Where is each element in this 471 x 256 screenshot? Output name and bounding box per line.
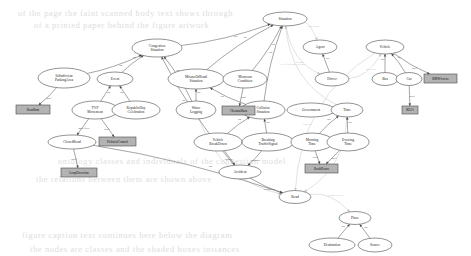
edge-label: isa (381, 57, 385, 61)
edge-label: causes (225, 157, 233, 161)
node-label: Government (302, 108, 320, 112)
class-node[interactable]: Agent (303, 40, 337, 54)
faint-edge-layer (199, 22, 381, 212)
edge-label: leadsTo (251, 158, 261, 162)
class-node[interactable]: Place (339, 212, 371, 225)
edge-label: isa (197, 90, 201, 94)
node-label: RoadJam (27, 107, 40, 111)
node-label: RushHours (314, 166, 330, 170)
edge-label: isa (244, 35, 248, 39)
node-label: Agent (316, 45, 325, 49)
instance-node[interactable]: ChennaiRain (222, 106, 255, 115)
edge-label: isa (327, 117, 331, 121)
instance-node[interactable]: RoadJam (16, 105, 50, 114)
class-node[interactable]: Source (358, 238, 392, 252)
node-label: Situation (279, 17, 292, 21)
node-label: PoliticalControl (107, 139, 128, 143)
node-label: Bus (382, 77, 388, 81)
edge-arrowhead (77, 132, 80, 135)
edge-label: isa (133, 55, 137, 59)
class-node[interactable]: MisuseOfRoadSituation (168, 69, 224, 89)
node-label: Time (343, 108, 351, 112)
edge-label: hasAgent (308, 24, 319, 28)
graph-edge (181, 24, 270, 45)
node-label: CollisionSituation (256, 106, 269, 114)
edge-label: isa (107, 90, 111, 94)
class-node[interactable]: MonsoonCondition (223, 70, 267, 88)
edge-arrowhead (76, 165, 79, 168)
edge-arrowhead (384, 54, 387, 57)
node-label: Accident (234, 170, 247, 174)
edge-arrowhead (120, 86, 123, 89)
class-node[interactable]: Bus (372, 73, 398, 86)
edge-arrowhead (408, 103, 411, 106)
edge-arrowhead (360, 224, 363, 227)
edge-label: hasEffect (78, 126, 89, 130)
class-node[interactable]: ClosedRoad (48, 135, 96, 149)
edge-label: isa (348, 120, 352, 124)
class-node[interactable]: Government (287, 103, 335, 117)
class-node[interactable]: Situation (263, 12, 307, 26)
edge-label: isa (269, 50, 273, 54)
graph-edge (207, 25, 274, 70)
class-node[interactable]: BreakingTrafficSignal (242, 133, 294, 151)
edge-label: isOf (46, 96, 51, 100)
class-node[interactable]: EveningTime (327, 133, 369, 151)
node-label: Event (111, 77, 119, 81)
class-node[interactable]: RepublicDayCelebration (112, 101, 160, 119)
edge-label: isAffectedBy atTime (281, 62, 306, 66)
class-node[interactable]: Time (331, 103, 363, 117)
node-label: Destination (324, 243, 341, 247)
node-label: ChennaiRain (230, 108, 248, 112)
class-node[interactable]: Driver (315, 72, 349, 86)
class-node[interactable]: Car (396, 73, 422, 86)
node-label: Vehicle (380, 45, 391, 49)
node-label: Source (370, 243, 380, 247)
graph-edge (252, 26, 281, 71)
instance-node[interactable]: PoliticalControl (99, 137, 136, 146)
node-label: CongestionSituation (149, 44, 166, 52)
edge-label: isa (266, 120, 270, 124)
edge-label-layer: isaisaisaisaisaisaisaisaisaisaisaisaisai… (46, 24, 417, 229)
edge-label: isa (272, 42, 276, 46)
class-node[interactable]: VehicleBreakDown (194, 133, 242, 151)
edge-label: isa (238, 117, 242, 121)
graph-edge (264, 26, 282, 101)
instance-node[interactable]: KL01 (402, 106, 418, 114)
edge-label: runsOn (303, 122, 312, 126)
graph-edge (199, 119, 281, 194)
class-node[interactable]: Accident (219, 165, 261, 179)
edge-label: drivesBy (366, 67, 377, 71)
edge-arrowhead (294, 188, 297, 191)
edge-label: connectedTo (329, 193, 344, 197)
node-label: InSufficientParkingArea (55, 74, 74, 82)
class-node[interactable]: CongestionSituation (132, 39, 182, 57)
class-node[interactable]: Event (97, 72, 133, 86)
edge-label: isa (341, 224, 345, 228)
node-label: ClosedRoad (63, 140, 81, 144)
edge-arrowhead (108, 86, 111, 89)
edge-label: isOf (410, 94, 415, 98)
class-node[interactable]: Vehicle (366, 40, 404, 54)
class-node[interactable]: WaterLogging (176, 101, 216, 119)
node-label: Place (351, 216, 359, 220)
class-node[interactable]: InSufficientParkingArea (38, 68, 90, 88)
instance-node[interactable]: LoopDirection (61, 168, 97, 177)
edge-label: isa (221, 94, 225, 98)
edge-arrowhead (336, 116, 339, 119)
class-node[interactable]: Road (279, 191, 311, 204)
node-layer: SituationCongestionSituationInSufficient… (16, 12, 457, 252)
instance-node[interactable]: RushHours (305, 164, 338, 173)
edge-arrowhead (112, 134, 115, 137)
node-label: Car (406, 77, 412, 81)
edge-label: isa (119, 63, 123, 67)
edge-label: isa (364, 225, 368, 229)
node-label: MonsoonCondition (238, 75, 253, 83)
instance-node[interactable]: BMWxxxxx (424, 74, 457, 83)
edge-arrowhead (285, 26, 288, 29)
edge-label: isOf (412, 66, 417, 70)
edge-label: isa (326, 56, 330, 60)
class-node[interactable]: TVPMovement (72, 101, 118, 119)
class-node[interactable]: Destination (309, 238, 355, 252)
node-label: Road (291, 195, 299, 199)
